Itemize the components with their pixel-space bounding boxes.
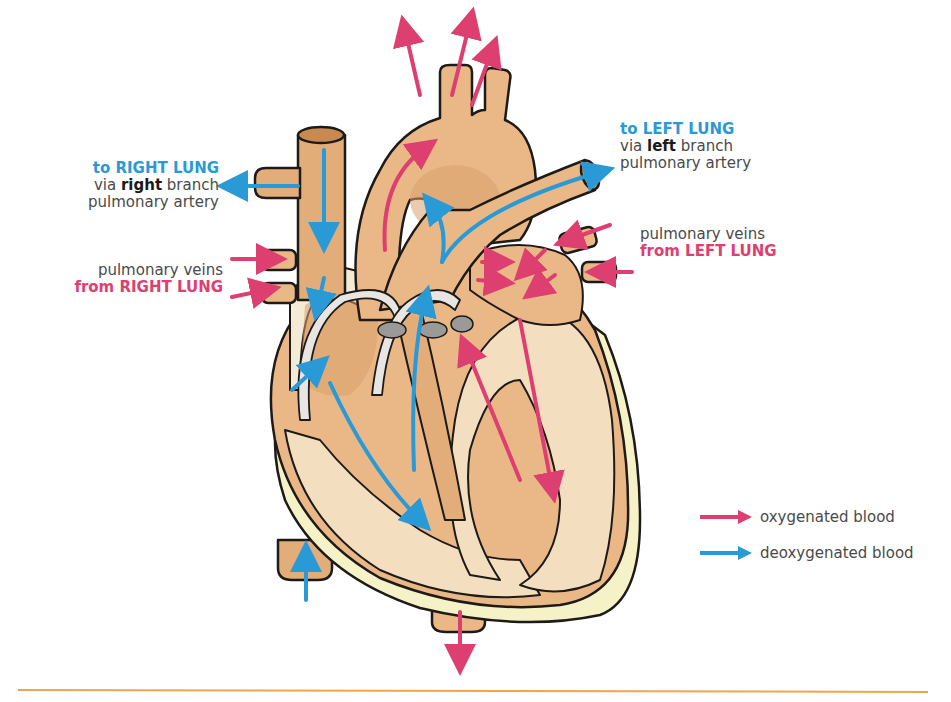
legend-oxygenated-label: oxygenated blood: [760, 508, 895, 526]
to-left-lung-line3: pulmonary artery: [620, 155, 751, 172]
to-left-lung-line2: via left branch: [620, 138, 751, 155]
heart-diagram: [0, 0, 951, 702]
to-left-lung-title: to LEFT LUNG: [620, 121, 751, 138]
from-right-lung-title: from RIGHT LUNG: [74, 279, 223, 296]
from-left-lung-line1: pulmonary veins: [640, 226, 777, 243]
heart-illustration: [255, 65, 640, 632]
blue-arrow-icon: [700, 545, 752, 561]
text-via: via: [620, 137, 647, 155]
pulmonary-valve: [378, 322, 406, 338]
right-pulmonary-vein-lower: [262, 283, 296, 303]
right-pulmonary-artery: [255, 168, 300, 198]
label-to-right-lung: to RIGHT LUNG via right branch pulmonary…: [88, 160, 219, 211]
svc-opening: [298, 127, 344, 143]
text-branch: branch: [162, 176, 219, 194]
arrow-aorta-up-1: [405, 30, 420, 95]
text-via: via: [94, 176, 121, 194]
legend-deoxygenated-label: deoxygenated blood: [760, 544, 914, 562]
arrow-la-2: [478, 280, 500, 282]
to-right-lung-line2: via right branch: [88, 177, 219, 194]
text-right-bold: right: [121, 176, 162, 194]
text-left-bold: left: [647, 137, 676, 155]
pink-arrow-icon: [700, 509, 752, 525]
label-to-left-lung: to LEFT LUNG via left branch pulmonary a…: [620, 121, 751, 172]
legend-deoxygenated: deoxygenated blood: [700, 544, 914, 562]
text-branch: branch: [676, 137, 733, 155]
mitral-valve: [451, 316, 473, 332]
label-from-left-lung: pulmonary veins from LEFT LUNG: [640, 226, 777, 260]
from-right-lung-line1: pulmonary veins: [74, 262, 223, 279]
label-from-right-lung: pulmonary veins from RIGHT LUNG: [74, 262, 223, 296]
from-left-lung-title: from LEFT LUNG: [640, 243, 777, 260]
to-right-lung-line3: pulmonary artery: [88, 194, 219, 211]
legend-oxygenated: oxygenated blood: [700, 508, 895, 526]
to-right-lung-title: to RIGHT LUNG: [88, 160, 219, 177]
aortic-valve: [419, 322, 447, 338]
superior-vena-cava: [298, 135, 345, 300]
